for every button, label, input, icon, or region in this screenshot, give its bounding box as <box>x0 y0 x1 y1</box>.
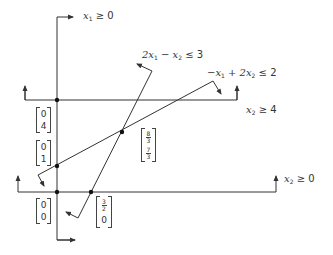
label-2x1-minus-x2: 2x1 − x2 ≤ 3 <box>142 50 203 61</box>
vertex-dot-0-4 <box>55 98 59 102</box>
vertex-dot-3half-0 <box>89 190 93 194</box>
vertex-label-3half-0: 3 2 0 <box>96 196 112 228</box>
vertex-label-0-0: 0 0 <box>36 198 51 224</box>
vertex-label-0-1: 0 1 <box>36 140 51 166</box>
vertex-label-0-4: 0 4 <box>36 107 51 133</box>
vertex-dot-0-1 <box>55 164 59 168</box>
vertex-dot-8third-7third <box>120 130 124 134</box>
vertex-dot-0-0 <box>55 190 59 194</box>
constraint-line-neg-x1-plus-2x2 <box>38 81 213 175</box>
label-x2-ge-4: x2 ≥ 4 <box>246 105 277 116</box>
vertex-label-8third-7third: 8 3 7 3 <box>141 128 156 162</box>
label-neg-x1-plus-2x2: −x1 + 2x2 ≤ 2 <box>207 68 277 79</box>
label-x2-nonneg: x2 ≥ 0 <box>284 174 315 185</box>
label-x1-nonneg: x1 ≥ 0 <box>83 11 114 22</box>
constraint-line-x1-nonneg <box>57 17 75 240</box>
